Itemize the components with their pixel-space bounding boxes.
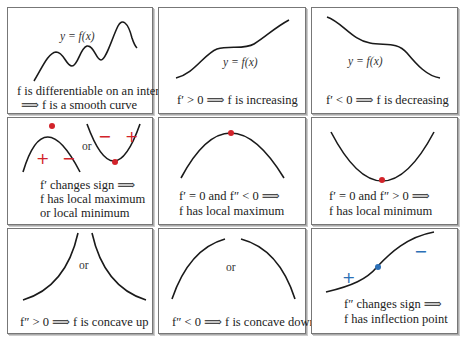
caption-line-1: f″ > 0 ⟹ f is concave up bbox=[20, 315, 148, 329]
panel-concave-up: or f″ > 0 ⟹ f is concave up bbox=[7, 228, 153, 334]
caption-line-1: f″ changes sign ⟹ bbox=[344, 297, 442, 311]
panel-increasing: y = f(x) f′ > 0 ⟹ f is increasing bbox=[158, 7, 306, 114]
caption-line-1: f′ = 0 and f″ < 0 ⟹ bbox=[179, 189, 280, 203]
caption-line-1: f′ = 0 and f″ > 0 ⟹ bbox=[329, 189, 430, 203]
minus-sign: − bbox=[98, 129, 111, 145]
curve-label: y = f(x) bbox=[348, 55, 383, 67]
curve-label: y = f(x) bbox=[60, 30, 95, 42]
caption-line-2: f has local minimum bbox=[329, 204, 432, 218]
caption-line-1: f′ changes sign ⟹ bbox=[40, 178, 135, 192]
caption-line-2: ⟹ f is a smooth curve bbox=[21, 98, 137, 112]
panel-smooth-curve: y = f(x) f is differentiable on an inter… bbox=[7, 7, 153, 114]
plus-sign: + bbox=[125, 129, 138, 145]
caption-line-2: f has local maximum bbox=[179, 204, 284, 218]
curve-label: y = f(x) bbox=[223, 56, 258, 68]
panel-inflection: + − f″ changes sign ⟹ f has inflection p… bbox=[311, 228, 458, 334]
inflection-point bbox=[375, 264, 381, 270]
minus-sign: − bbox=[414, 244, 427, 260]
local-max-point bbox=[228, 130, 234, 136]
or-label: or bbox=[82, 140, 92, 152]
panel-decreasing: y = f(x) f′ < 0 ⟹ f is decreasing bbox=[311, 7, 458, 114]
caption-line-3: or local minimum bbox=[40, 206, 130, 220]
local-min-point bbox=[112, 159, 118, 165]
caption-line-1: f is differentiable on an interval bbox=[17, 84, 175, 98]
minus-sign: − bbox=[62, 151, 75, 167]
plus-sign: + bbox=[342, 270, 355, 286]
caption-line-2: f has inflection point bbox=[344, 312, 448, 326]
panel-concave-down: or f″ < 0 ⟹ f is concave down bbox=[158, 228, 306, 334]
caption-line-1: f′ < 0 ⟹ f is decreasing bbox=[326, 93, 449, 107]
caption-line-1: f′ > 0 ⟹ f is increasing bbox=[177, 93, 298, 107]
plus-sign: + bbox=[36, 151, 49, 167]
panel-local-max: f′ = 0 and f″ < 0 ⟹ f has local maximum bbox=[158, 117, 306, 225]
caption-line-1: f″ < 0 ⟹ f is concave down bbox=[172, 315, 316, 329]
or-label: or bbox=[226, 261, 236, 273]
panel-sign-change: + − − + or f′ changes sign ⟹ f has local… bbox=[7, 117, 153, 225]
or-label: or bbox=[79, 259, 89, 271]
panel-local-min: f′ = 0 and f″ > 0 ⟹ f has local minimum bbox=[311, 117, 458, 225]
caption-line-2: f has local maximum bbox=[40, 192, 145, 206]
local-min-point bbox=[379, 177, 385, 183]
local-max-point bbox=[49, 123, 55, 129]
